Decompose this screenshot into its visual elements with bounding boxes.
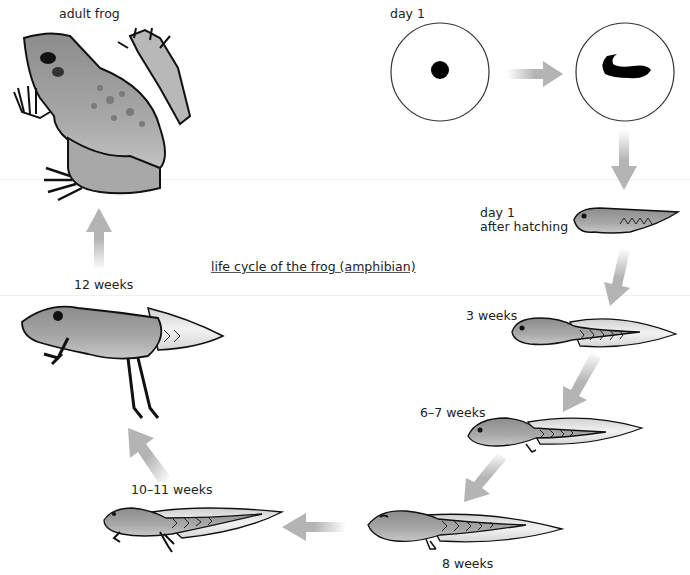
label-hatchling-line1: day 1 [480,205,515,220]
label-10-11-weeks: 10–11 weeks [131,482,212,497]
embryo-illustration [573,20,677,124]
divider-line-middle [0,295,690,296]
arrow-12weeks-to-adult [84,206,114,270]
hatchling-illustration [570,204,680,238]
arrow-egg-to-embryo [507,60,567,88]
arrow-3weeks-to-6weeks [555,352,605,414]
diagram-title: life cycle of the frog (amphibian) [211,259,416,274]
arrow-10weeks-to-12weeks [126,426,176,482]
label-hatchling-line2: after hatching [480,219,568,234]
arrow-hatchling-to-3weeks [596,248,636,308]
label-day-1-after-hatching: day 1 after hatching [480,206,568,234]
froglet-12-weeks-illustration [18,298,223,424]
arrow-8weeks-to-10weeks [280,512,346,542]
tadpole-6-7-weeks-illustration [466,410,646,454]
label-day-1: day 1 [390,6,425,21]
label-adult-frog: adult frog [59,6,120,21]
arrow-6weeks-to-8weeks [460,452,510,506]
tadpole-8-weeks-illustration [366,505,566,555]
tadpole-3-weeks-illustration [510,312,680,352]
arrow-embryo-to-hatchling [610,130,638,192]
label-12-weeks: 12 weeks [74,277,133,292]
egg-illustration [388,20,492,124]
tadpole-10-11-weeks-illustration [102,502,287,562]
adult-frog-illustration [10,28,195,203]
label-8-weeks: 8 weeks [442,556,493,571]
